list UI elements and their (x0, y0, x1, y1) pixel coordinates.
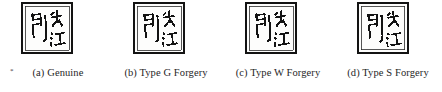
caption-row: * (a) Genuine (b) Type G Forgery (c) Typ… (0, 66, 442, 92)
caption-panel-c: (c) Type W Forgery (222, 66, 334, 80)
seal-panel-c (224, 2, 334, 60)
seal-image-row (0, 0, 442, 60)
seal-panel-b (112, 2, 222, 60)
seal-stamp-image-d (357, 2, 409, 54)
seal-stamp-image-c (245, 2, 297, 54)
seal-comparison-figure: * (a) Genuine (b) Type G Forgery (c) Typ… (0, 0, 442, 92)
seal-stamp-image-a (21, 2, 73, 54)
caption-panel-d: (d) Type S Forgery (332, 66, 442, 80)
seal-stamp-image-b (133, 2, 185, 54)
seal-panel-a (0, 2, 110, 60)
seal-panel-d (336, 2, 442, 60)
caption-panel-b: (b) Type G Forgery (110, 66, 222, 80)
caption-panel-a: (a) Genuine (2, 66, 114, 80)
